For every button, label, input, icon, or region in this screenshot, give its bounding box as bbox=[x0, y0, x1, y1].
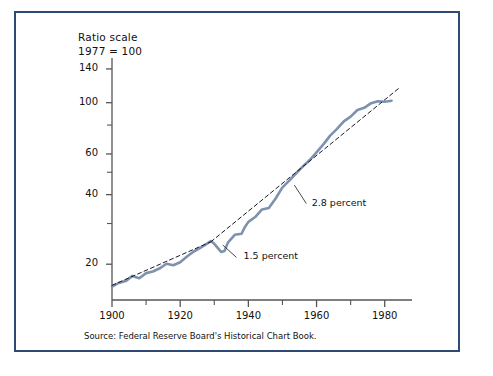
x-tick-label-1980: 1980 bbox=[362, 310, 408, 321]
y-tick-label-140: 140 bbox=[68, 62, 98, 73]
x-tick-label-1920: 1920 bbox=[157, 310, 203, 321]
y-tick-label-60: 60 bbox=[68, 147, 98, 158]
x-tick-label-1960: 1960 bbox=[294, 310, 340, 321]
chart-figure: Ratio scale 1977 = 100 Source: Federal R… bbox=[0, 0, 493, 376]
series-line-1 bbox=[112, 242, 211, 286]
y-tick-label-100: 100 bbox=[68, 96, 98, 107]
y-tick-label-20: 20 bbox=[68, 257, 98, 268]
annotation-label-0: 1.5 percent bbox=[244, 250, 299, 261]
series-line-2 bbox=[211, 89, 398, 242]
x-tick-label-1940: 1940 bbox=[225, 310, 271, 321]
annotation-leader-1 bbox=[294, 185, 306, 203]
annotation-label-1: 2.8 percent bbox=[312, 197, 367, 208]
x-tick-label-1900: 1900 bbox=[89, 310, 135, 321]
source-note: Source: Federal Reserve Board's Historic… bbox=[84, 331, 317, 341]
y-tick-label-40: 40 bbox=[68, 188, 98, 199]
